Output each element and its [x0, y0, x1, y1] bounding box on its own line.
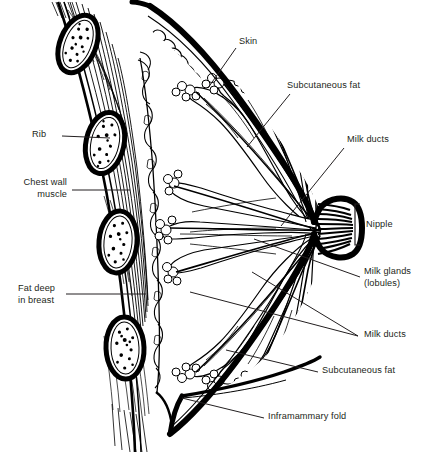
label-subcutaneous-fat-bottom: Subcutaneous fat — [322, 365, 395, 377]
label-subcutaneous-fat-top: Subcutaneous fat — [287, 80, 360, 92]
label-skin: Skin — [239, 36, 257, 48]
illustration-canvas: Skin Subcutaneous fat Milk ducts Nipple … — [0, 0, 430, 457]
label-milk-glands-line1: Milk glands — [364, 266, 411, 278]
label-fat-deep-line1: Fat deep — [18, 283, 55, 295]
label-nipple: Nipple — [366, 219, 393, 231]
milk-glands-lobules — [155, 72, 330, 393]
label-milk-ducts-bottom: Milk ducts — [364, 329, 406, 341]
label-inframammary-fold: Inframammary fold — [268, 411, 346, 423]
label-milk-glands-line2: (lobules) — [364, 278, 400, 290]
chest-wall-group — [50, 2, 162, 452]
label-milk-ducts-top: Milk ducts — [347, 134, 389, 146]
label-fat-deep-line2: in breast — [18, 295, 54, 307]
label-rib: Rib — [32, 129, 46, 141]
label-chest-wall-line1: Chest wall — [13, 177, 67, 189]
label-chest-wall-line2: muscle — [13, 189, 67, 201]
nipple — [318, 204, 353, 254]
